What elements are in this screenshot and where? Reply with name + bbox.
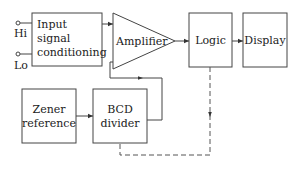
zener-line2: reference bbox=[22, 117, 76, 130]
lo-label: Lo bbox=[14, 59, 28, 72]
zener-reference-block: Zener reference bbox=[22, 89, 76, 143]
zener-line1: Zener bbox=[32, 103, 66, 116]
display-label: Display bbox=[244, 34, 286, 47]
input-conditioning-block: Input signal conditioning bbox=[32, 13, 107, 66]
input-conditioning-line3: conditioning bbox=[37, 46, 107, 59]
hi-terminal bbox=[16, 21, 32, 25]
logic-label: Logic bbox=[195, 34, 226, 47]
display-block: Display bbox=[243, 13, 287, 67]
bcd-line2: divider bbox=[100, 117, 140, 130]
logic-block: Logic bbox=[189, 13, 232, 67]
input-conditioning-line2: signal bbox=[37, 32, 71, 45]
amplifier-label: Amplifier bbox=[115, 35, 168, 48]
dashed-arrowhead bbox=[208, 112, 212, 117]
bcd-line1: BCD bbox=[107, 103, 133, 116]
bcd-divider-block: BCD divider bbox=[93, 89, 147, 143]
lo-terminal bbox=[16, 52, 32, 56]
hi-label: Hi bbox=[14, 27, 28, 40]
input-conditioning-line1: Input bbox=[37, 18, 68, 31]
feedback-arrowhead bbox=[138, 76, 143, 80]
amplifier-block: Amplifier bbox=[113, 13, 175, 69]
block-diagram: Hi Lo Input signal conditioning Amplifie… bbox=[0, 0, 304, 171]
